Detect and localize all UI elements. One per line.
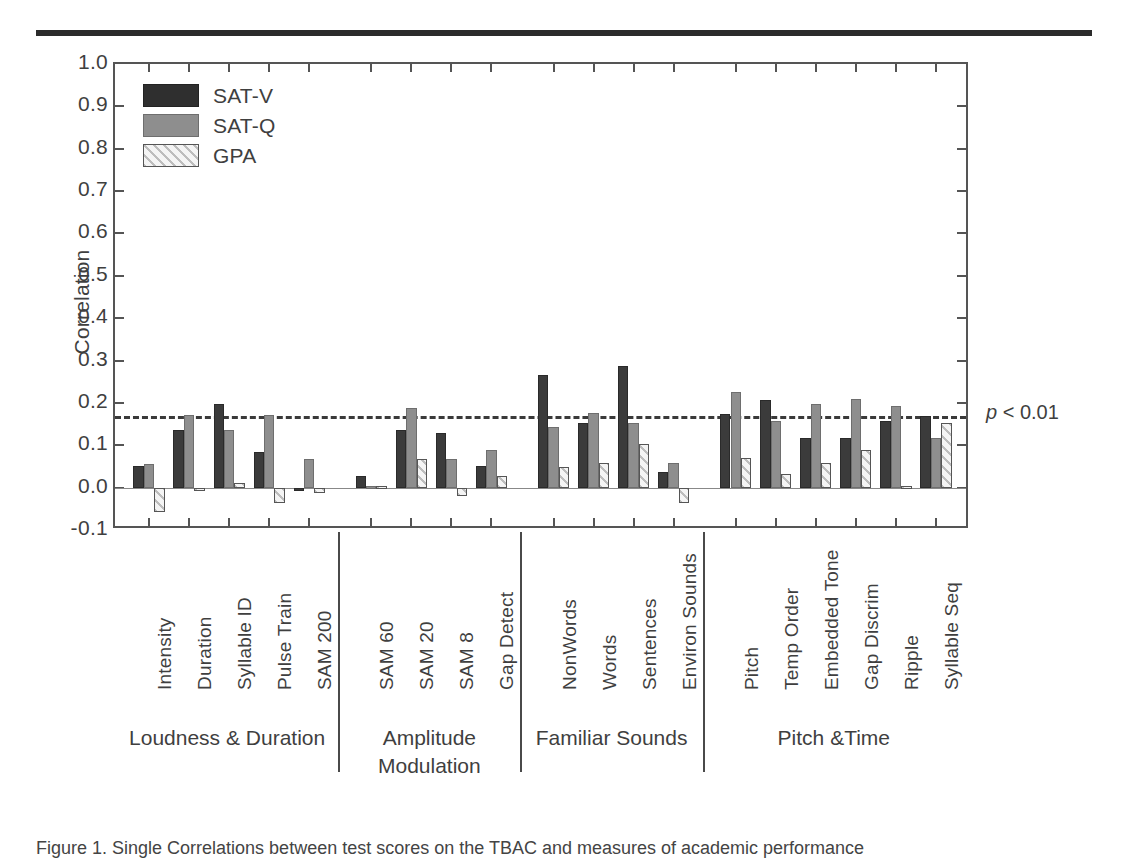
y-axis-tick	[957, 148, 966, 150]
category-label: Duration	[194, 617, 216, 690]
x-axis-tick	[895, 518, 897, 526]
x-axis-tick	[815, 64, 817, 72]
category-label: Gap Detect	[496, 592, 518, 690]
bar-satv	[356, 476, 366, 488]
x-axis-tick	[370, 64, 372, 72]
figure-root: Correlation 1.00.90.80.70.60.50.40.30.20…	[0, 0, 1122, 862]
x-axis-tick	[815, 518, 817, 526]
y-axis-tick-label: -0.1	[56, 516, 108, 540]
legend-item: GPA	[143, 142, 275, 169]
bar-gpa	[559, 467, 569, 487]
bar-satq	[891, 406, 901, 488]
bar-satv	[294, 488, 304, 491]
x-axis-tick	[673, 518, 675, 526]
x-axis-tick	[268, 64, 270, 72]
category-label: SAM 200	[314, 610, 336, 690]
category-label: SAM 8	[456, 632, 478, 690]
y-axis-tick	[115, 444, 124, 446]
bar-satq	[668, 463, 678, 488]
group-label: AmplitudeModulation	[349, 724, 509, 779]
x-axis-tick	[490, 64, 492, 72]
legend-item: SAT-Q	[143, 112, 275, 139]
x-axis-tick	[228, 64, 230, 72]
x-axis-tick	[775, 518, 777, 526]
category-label: Pulse Train	[274, 593, 296, 690]
bar-satv	[578, 423, 588, 487]
p-symbol: p	[986, 401, 997, 423]
x-axis-tick	[308, 64, 310, 72]
y-axis-tick-label: 0.2	[56, 389, 108, 413]
bar-satq	[264, 415, 274, 488]
bar-satv	[254, 452, 264, 488]
category-label: SAM 60	[376, 621, 398, 690]
bar-gpa	[274, 488, 284, 503]
category-label: SAM 20	[416, 621, 438, 690]
group-label: Familiar Sounds	[531, 724, 691, 752]
bar-satq	[588, 413, 598, 488]
x-axis-tick	[633, 64, 635, 72]
group-label-line: Pitch &Time	[714, 724, 954, 752]
x-axis-tick	[450, 518, 452, 526]
y-axis-tick	[115, 275, 124, 277]
bar-gpa	[234, 483, 244, 488]
x-axis-tick	[855, 518, 857, 526]
bar-satv	[658, 472, 668, 487]
y-axis-tick	[957, 105, 966, 107]
bar-gpa	[417, 459, 427, 488]
y-axis-tick	[115, 360, 124, 362]
group-label: Pitch &Time	[714, 724, 954, 752]
category-label: Syllable Seq	[941, 582, 963, 690]
y-axis-tick-label: 0.0	[56, 474, 108, 498]
y-axis-tick	[957, 317, 966, 319]
y-axis-tick-label: 0.3	[56, 347, 108, 371]
category-label: Temp Order	[781, 588, 803, 690]
category-label: Gap Discrim	[861, 583, 883, 690]
bar-satv	[173, 430, 183, 487]
category-label: Sentences	[639, 598, 661, 690]
x-axis-tick	[895, 64, 897, 72]
bar-gpa	[599, 463, 609, 487]
bar-satq	[304, 459, 314, 488]
bar-satq	[931, 438, 941, 488]
bar-gpa	[314, 488, 324, 494]
x-axis-tick	[735, 518, 737, 526]
bar-satq	[406, 408, 416, 488]
bar-satq	[224, 430, 234, 487]
bar-satq	[731, 392, 741, 487]
bar-gpa	[154, 488, 164, 513]
x-axis-tick	[735, 64, 737, 72]
y-axis-tick	[115, 232, 124, 234]
legend-label: SAT-Q	[213, 114, 275, 138]
category-label: Embedded Tone	[821, 549, 843, 690]
x-axis-tick	[935, 64, 937, 72]
category-label: Intensity	[154, 617, 176, 690]
category-label: Environ Sounds	[679, 553, 701, 690]
x-axis-tick	[553, 64, 555, 72]
group-label-line: Amplitude	[349, 724, 509, 752]
bar-satv	[538, 375, 548, 487]
group-label: Loudness & Duration	[127, 724, 327, 752]
y-axis-tick-label: 0.8	[56, 135, 108, 159]
x-axis-tick	[148, 518, 150, 526]
legend-item: SAT-V	[143, 82, 275, 109]
y-axis-tick-label: 0.5	[56, 262, 108, 286]
bar-gpa	[821, 463, 831, 487]
bar-satv	[618, 366, 628, 488]
group-label-line: Familiar Sounds	[531, 724, 691, 752]
category-label: Words	[599, 634, 621, 690]
group-label-line: Loudness & Duration	[127, 724, 327, 752]
x-axis-tick	[935, 518, 937, 526]
y-axis-tick-label: 0.6	[56, 219, 108, 243]
legend-swatch-satq	[143, 114, 199, 137]
x-axis-tick	[775, 64, 777, 72]
bar-satv	[800, 438, 810, 488]
y-axis-tick	[115, 190, 124, 192]
bar-gpa	[679, 488, 689, 503]
x-axis-tick	[673, 64, 675, 72]
bar-satv	[476, 466, 486, 488]
category-label: NonWords	[559, 599, 581, 690]
y-axis-tick-label: 0.4	[56, 304, 108, 328]
bar-gpa	[941, 423, 951, 487]
x-axis-tick	[268, 518, 270, 526]
bar-satv	[214, 404, 224, 487]
